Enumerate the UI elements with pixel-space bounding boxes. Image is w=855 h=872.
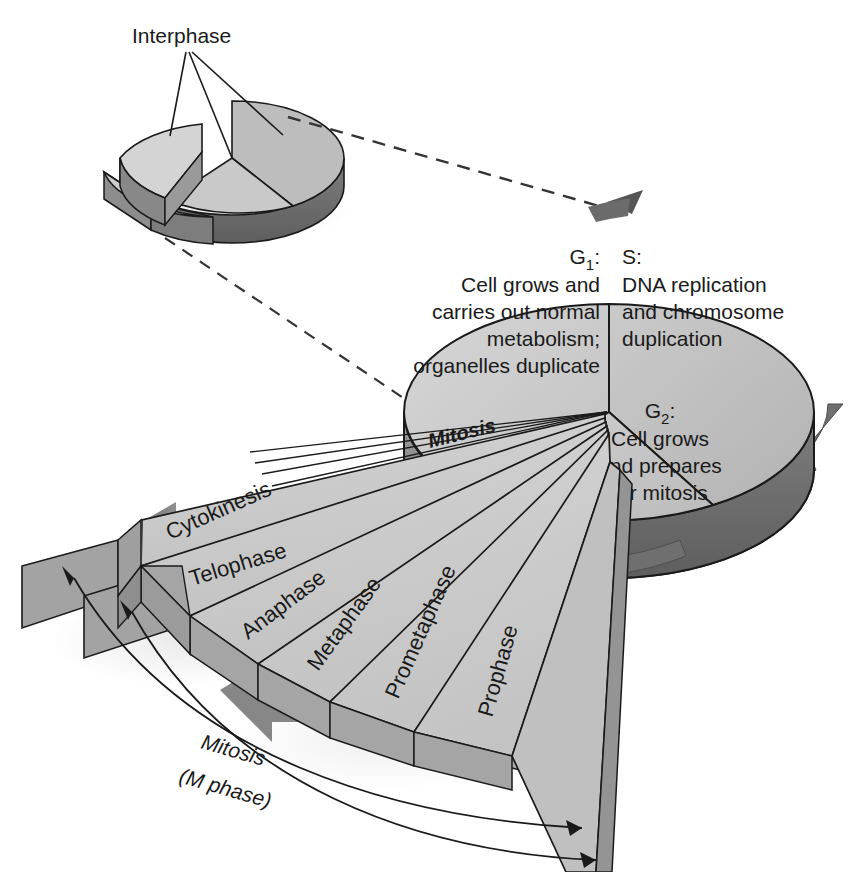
inset-pie-group: Interphase <box>104 24 350 244</box>
sector-text-s: S: DNA replication and chromosome duplic… <box>622 245 784 350</box>
s-line-3: duplication <box>622 327 722 350</box>
g1-line-2: carries out normal <box>432 300 600 323</box>
g2-heading: G <box>645 399 661 422</box>
s-heading: S <box>622 245 636 268</box>
interphase-label: Interphase <box>132 24 231 47</box>
g1-line-4: organelles duplicate <box>413 354 600 377</box>
g1-line-1: Cell grows and <box>461 273 600 296</box>
g1-subscript: 1 <box>586 256 594 273</box>
mitosis-fan-group: Cytokinesis Telophase Anaphase Metaphase… <box>22 414 632 872</box>
svg-text:S:: S: <box>622 245 642 268</box>
s-line-2: and chromosome <box>622 300 784 323</box>
inset-leader-1 <box>170 52 186 136</box>
g1-line-3: metabolism; <box>487 327 600 350</box>
g2-colon: : <box>669 399 675 422</box>
diagram-canvas: Interphase <box>0 0 855 872</box>
g2-line-1: Cell grows <box>611 427 709 450</box>
svg-text:G1:: G1: <box>569 245 600 273</box>
bracket-label-line2: (M phase) <box>177 764 274 812</box>
s-line-1: DNA replication <box>622 273 767 296</box>
sector-text-g1: G1: Cell grows and carries out normal me… <box>413 245 600 377</box>
g2-subscript: 2 <box>661 410 669 427</box>
g1-heading: G <box>569 245 585 268</box>
g1-colon: : <box>594 245 600 268</box>
s-colon: : <box>636 245 642 268</box>
cell-cycle-diagram: Interphase <box>0 0 855 872</box>
